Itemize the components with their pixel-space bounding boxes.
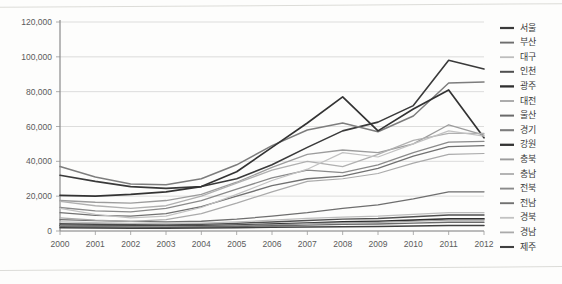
x-axis-tick-label: 2010: [404, 239, 423, 249]
x-axis-tick-label: 2009: [369, 239, 388, 249]
y-axis-tick-label: 40,000: [26, 156, 52, 166]
y-axis-tick-label: 120,000: [21, 17, 52, 27]
legend-item-label: 전북: [520, 183, 536, 193]
legend-item-label: 강원: [520, 139, 536, 149]
legend-item-label: 경기: [520, 124, 536, 135]
y-axis-tick-label: 80,000: [26, 87, 52, 97]
legend-item-label: 충북: [520, 154, 536, 164]
y-axis-tick-label: 0: [47, 226, 52, 236]
y-axis-tick-label: 20,000: [26, 191, 52, 201]
legend-item-label: 경북: [520, 211, 536, 222]
series-line: [60, 60, 484, 188]
x-axis-tick-label: 2001: [86, 239, 105, 249]
legend-item-label: 대구: [520, 52, 536, 62]
legend-item-label: 제주: [520, 242, 536, 252]
x-axis-tick-label: 2006: [263, 239, 282, 249]
legend-item-label: 부산: [520, 37, 536, 47]
series-line: [60, 141, 484, 212]
y-axis-tick-label: 100,000: [21, 52, 52, 62]
x-axis-tick-label: 2012: [475, 239, 494, 249]
line-chart: 020,00040,00060,00080,000100,000120,0002…: [0, 0, 562, 284]
x-axis-tick-label: 2004: [192, 239, 211, 249]
x-axis-tick-label: 2011: [440, 239, 459, 249]
x-axis-tick-label: 2000: [51, 239, 70, 249]
legend-item-label: 전남: [520, 198, 536, 208]
legend-item-label: 대전: [520, 96, 536, 106]
legend-item-label: 경남: [520, 226, 536, 237]
y-axis-tick-label: 60,000: [26, 122, 52, 132]
legend-item-label: 서울: [520, 23, 536, 33]
x-axis-tick-label: 2003: [157, 239, 176, 249]
x-axis-tick-label: 2002: [121, 239, 140, 249]
x-axis-tick-label: 2008: [333, 239, 352, 249]
series-line: [60, 131, 484, 218]
legend-item-label: 울산: [520, 110, 536, 120]
legend-item-label: 인천: [520, 66, 536, 76]
x-axis-tick-label: 2005: [227, 239, 246, 249]
chart-figure: 020,00040,00060,00080,000100,000120,0002…: [0, 0, 562, 284]
x-axis-tick-label: 2007: [298, 239, 317, 249]
legend-item-label: 충남: [520, 169, 536, 179]
legend-item-label: 광주: [520, 80, 536, 91]
